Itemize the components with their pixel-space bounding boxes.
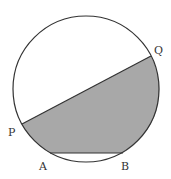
label-q: Q: [154, 44, 163, 57]
label-b: B: [121, 160, 129, 173]
circle-diagram: P Q A B: [0, 0, 171, 179]
label-p: P: [8, 126, 16, 139]
label-a: A: [38, 160, 48, 173]
shaded-region: [22, 56, 159, 153]
